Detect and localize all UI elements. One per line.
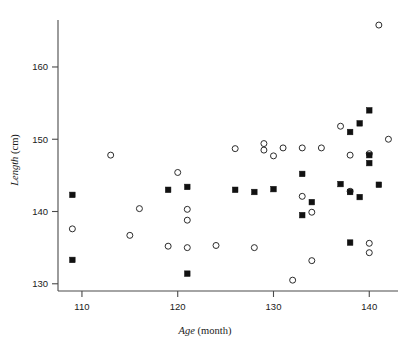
data-point-filled-square <box>252 189 258 195</box>
data-point-open-circle <box>127 232 133 238</box>
data-point-open-circle <box>251 245 257 251</box>
x-tick-label: 110 <box>74 301 89 312</box>
y-tick-label: 150 <box>32 134 48 145</box>
data-point-open-circle <box>261 141 267 147</box>
data-point-filled-square <box>184 271 190 277</box>
x-tick-label: 140 <box>361 301 377 312</box>
data-point-open-circle <box>309 258 315 264</box>
data-point-open-circle <box>213 242 219 248</box>
data-points-filled-square <box>70 108 382 277</box>
y-tick-label: 160 <box>32 61 48 72</box>
plot-canvas: 130140150160 110120130140 Age (month) Le… <box>0 0 407 345</box>
data-point-open-circle <box>69 226 75 232</box>
data-point-open-circle <box>184 206 190 212</box>
scatter-plot-figure: 130140150160 110120130140 Age (month) Le… <box>0 0 407 345</box>
y-axis-ticks: 130140150160 <box>32 61 58 289</box>
data-point-filled-square <box>357 194 363 200</box>
data-point-open-circle <box>347 152 353 158</box>
data-point-filled-square <box>184 184 190 190</box>
data-point-filled-square <box>299 212 305 218</box>
data-point-filled-square <box>376 182 382 188</box>
data-point-open-circle <box>261 147 267 153</box>
data-point-open-circle <box>270 153 276 159</box>
data-point-open-circle <box>299 145 305 151</box>
data-point-open-circle <box>232 146 238 152</box>
data-point-filled-square <box>165 187 171 193</box>
data-point-open-circle <box>184 217 190 223</box>
y-tick-label: 130 <box>32 278 48 289</box>
data-point-filled-square <box>357 121 363 127</box>
data-point-filled-square <box>347 129 353 135</box>
data-point-filled-square <box>366 108 372 114</box>
data-point-filled-square <box>347 240 353 246</box>
data-point-open-circle <box>299 193 305 199</box>
x-tick-label: 120 <box>170 301 186 312</box>
data-point-open-circle <box>108 152 114 158</box>
data-point-open-circle <box>136 206 142 212</box>
data-point-filled-square <box>338 181 344 187</box>
data-point-filled-square <box>366 152 372 158</box>
data-point-open-circle <box>376 22 382 28</box>
x-axis-title: Age (month) <box>178 325 232 337</box>
data-point-filled-square <box>70 257 76 263</box>
data-point-open-circle <box>175 169 181 175</box>
data-point-open-circle <box>280 145 286 151</box>
data-point-filled-square <box>366 160 372 166</box>
data-point-open-circle <box>165 243 171 249</box>
y-axis-title: Length (cm) <box>9 134 21 187</box>
x-tick-label: 130 <box>266 301 282 312</box>
data-point-filled-square <box>309 199 315 205</box>
data-point-open-circle <box>385 136 391 142</box>
data-point-filled-square <box>271 186 277 192</box>
data-points-open-circle <box>69 22 391 283</box>
data-point-open-circle <box>366 240 372 246</box>
data-point-open-circle <box>309 209 315 215</box>
data-point-open-circle <box>366 250 372 256</box>
data-point-open-circle <box>184 245 190 251</box>
x-axis-ticks: 110120130140 <box>74 291 377 312</box>
data-point-open-circle <box>290 277 296 283</box>
data-point-open-circle <box>338 123 344 129</box>
data-point-filled-square <box>347 189 353 195</box>
data-point-filled-square <box>299 171 305 177</box>
data-point-filled-square <box>70 192 76 198</box>
data-point-open-circle <box>318 145 324 151</box>
data-point-filled-square <box>232 187 238 193</box>
y-tick-label: 140 <box>32 206 48 217</box>
